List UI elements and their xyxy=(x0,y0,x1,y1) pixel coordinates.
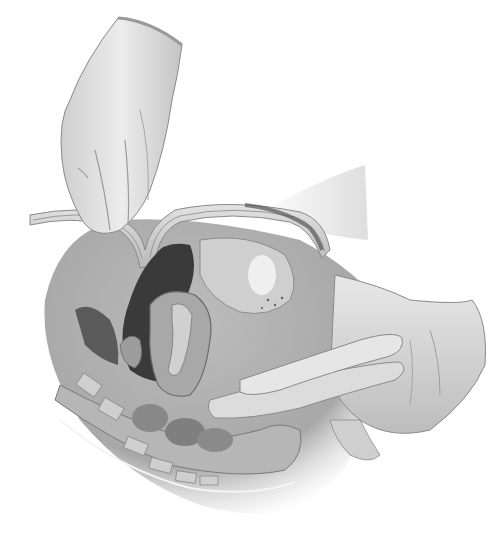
pelvic-exam-illustration xyxy=(0,0,503,544)
illustration-canvas xyxy=(0,0,503,544)
abdominal-hand xyxy=(61,18,182,233)
